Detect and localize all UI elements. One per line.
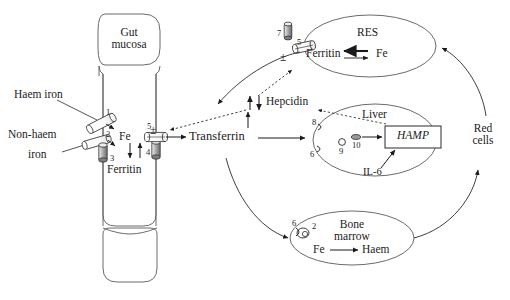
transporter-number-2: 2 [106, 130, 110, 139]
fe-enterocyte-label: Fe [119, 130, 131, 142]
res-label: RES [357, 26, 378, 38]
enterocyte-lower-cell [103, 228, 157, 282]
marrow-to-redcells-curve [414, 170, 478, 238]
ferritin-enterocyte-label: Ferritin [107, 163, 142, 175]
transporter-7-glyph [284, 22, 292, 40]
transporter-number-5: 5 [147, 122, 151, 131]
marrow-fe-label: Fe [313, 243, 325, 255]
transporter-number-4: 4 [146, 148, 150, 157]
plus-minus-res: ± [280, 51, 286, 63]
transporter-number-2-marrow: 2 [312, 222, 316, 231]
marrow-haem-label: Haem [362, 243, 389, 255]
hepcidin-to-enterocyte-dotted [170, 110, 246, 130]
hamp-label: HAMP [385, 129, 441, 141]
pathway-svg [0, 0, 510, 300]
transporter-4-glyph [152, 140, 160, 159]
molecule-10-glyph [351, 135, 360, 140]
transporter-number-5b: 5 [297, 38, 301, 47]
molecule-9-glyph [339, 139, 346, 146]
haem-iron-label: Haem iron [14, 88, 63, 100]
hepcidin-label: Hepcidin [266, 95, 308, 107]
res-ferritin-label: Ferritin [306, 47, 341, 59]
res-cell [304, 15, 436, 77]
hepcidin-to-res-dotted [258, 70, 292, 96]
transporter-number-6-marrow: 6 [292, 219, 296, 228]
molecule-number-9: 9 [339, 147, 343, 156]
transporter-number-1: 1 [106, 108, 110, 117]
haem-iron-pointer [57, 100, 97, 120]
non-haem-iron-label-line2: iron [28, 148, 47, 160]
liver-label: Liver [362, 108, 387, 120]
diagram-canvas: Gut mucosa Haem iron Non-haem iron Fe Fe… [0, 0, 510, 300]
red-cells-label: Red cells [466, 122, 500, 146]
molecule-number-10: 10 [352, 141, 361, 150]
transferrin-to-marrow-curve [226, 158, 288, 238]
res-fe-label: Fe [376, 47, 388, 59]
gut-mucosa-label: Gut mucosa [106, 26, 152, 50]
transporter-number-3: 3 [110, 154, 114, 163]
il6-label: IL-6 [363, 166, 382, 177]
redcells-to-res-curve [442, 48, 486, 116]
transferrin-label: Transferrin [189, 130, 245, 143]
transporter-3-glyph [99, 143, 107, 162]
transporter-number-7: 7 [277, 29, 281, 38]
transporter-number-8: 8 [312, 118, 316, 127]
bone-marrow-label: Bone marrow [327, 218, 377, 242]
transporter-number-6-liver: 6 [310, 150, 314, 159]
non-haem-iron-label-line1: Non-haem [8, 128, 57, 140]
